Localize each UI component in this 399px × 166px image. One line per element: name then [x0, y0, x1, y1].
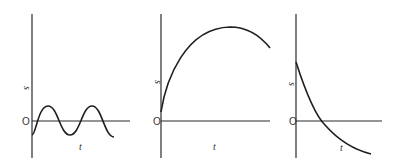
y-axis-label: s — [287, 82, 298, 86]
origin-label: O — [153, 116, 161, 127]
panel-1: O t s — [22, 14, 130, 158]
y-axis-label: s — [153, 80, 164, 84]
parabolic-curve — [161, 27, 270, 112]
panel-3: O t s — [287, 14, 382, 158]
origin-label: O — [22, 116, 30, 127]
origin-label: O — [289, 116, 297, 127]
diagram-canvas: O t s O t s O t s — [0, 0, 399, 166]
y-axis-label: s — [22, 86, 33, 90]
panel-2: O t s — [153, 14, 270, 158]
x-axis-label: t — [213, 141, 216, 152]
decay-curve — [296, 62, 371, 154]
x-axis-label: t — [79, 141, 82, 152]
x-axis-label: t — [340, 142, 343, 153]
